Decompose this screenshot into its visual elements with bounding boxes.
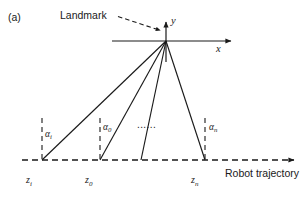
z-0-subscript: 0	[89, 180, 93, 188]
alpha-i-subscript: i	[50, 133, 52, 140]
observation-label-z-i: zi	[26, 175, 32, 185]
bearing-ray-zn	[166, 41, 205, 160]
observation-label-z-n: zn	[191, 175, 198, 185]
angle-label-alpha-i: αi	[45, 130, 52, 140]
angle-label-alpha-0: α0	[103, 123, 111, 133]
observation-label-z-0: z0	[85, 175, 92, 185]
landmark-pointer-arrow	[118, 17, 161, 31]
robot-trajectory-label: Robot trajectory	[225, 168, 299, 179]
figure-container: (a) Landmark y x αi α0 αn ...... zi z0 z…	[0, 0, 307, 202]
panel-tag: (a)	[8, 12, 21, 23]
angle-label-alpha-n: αn	[209, 123, 217, 133]
ellipsis-dots: ......	[137, 119, 156, 130]
alpha-0-subscript: 0	[108, 126, 111, 133]
y-axis-label: y	[171, 16, 176, 27]
bearing-ray-z0	[100, 41, 166, 160]
landmark-label: Landmark	[60, 10, 107, 21]
x-axis-label: x	[216, 44, 221, 55]
bearing-ray-zmid	[141, 41, 166, 160]
z-i-subscript: i	[30, 180, 32, 188]
z-n-subscript: n	[195, 180, 199, 188]
alpha-n-subscript: n	[214, 126, 217, 133]
bearing-ray-zi	[42, 41, 166, 160]
